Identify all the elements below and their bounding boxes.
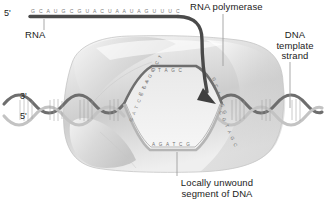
three-prime-label-dna: 3'	[20, 91, 27, 101]
rna-label: RNA	[25, 30, 45, 41]
dna-template-strand-label: DNA template strand	[268, 30, 322, 62]
five-prime-label-rna: 5'	[4, 8, 11, 18]
svg-text:A G A T C G: A G A T C G	[152, 142, 191, 147]
locally-unwound-label: Locally unwound segment of DNA	[152, 178, 282, 199]
five-prime-label-dna: 5'	[20, 111, 27, 121]
rna-polymerase-label: RNA polymerase	[190, 2, 263, 13]
rna-transcript-sequence: G C A U G C G U A C U A A U A G U U U C	[31, 8, 181, 14]
transcription-figure: C T A G C A G A T C G G A T C C G A C T …	[0, 0, 326, 209]
